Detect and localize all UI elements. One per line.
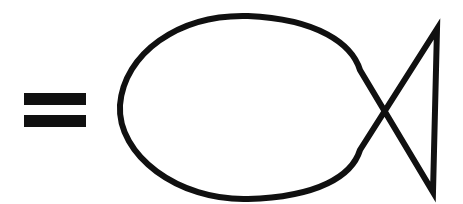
fish-drawing-canvas [0, 0, 463, 204]
equals-bar-top [24, 93, 86, 105]
equals-bar-bottom [24, 115, 86, 127]
figure-root: A thick black equals sign on the left, a… [0, 0, 463, 204]
